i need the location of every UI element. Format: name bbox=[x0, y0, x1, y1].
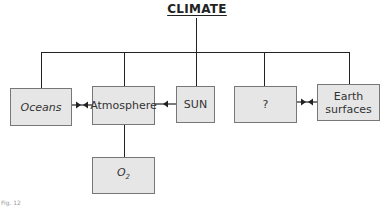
node-unknown: ? bbox=[234, 86, 297, 123]
node-unknown-label: ? bbox=[263, 98, 269, 111]
node-oceans: Oceans bbox=[10, 88, 72, 126]
node-o2: O2 bbox=[92, 157, 155, 194]
node-earth-surfaces-label-line1: Earth bbox=[334, 90, 364, 103]
node-o2-label-base: O bbox=[117, 166, 126, 179]
node-earth-surfaces-label-line2: surfaces bbox=[325, 103, 371, 116]
node-o2-label-subscript: 2 bbox=[126, 174, 130, 182]
node-atmosphere-label: Atmosphere bbox=[90, 99, 157, 112]
node-sun-label: SUN bbox=[184, 98, 207, 111]
sun-atmosphere-arrow bbox=[155, 101, 176, 108]
node-earth-surfaces: Earth surfaces bbox=[317, 84, 380, 121]
oceans-atmosphere-bidirectional-arrow bbox=[72, 102, 92, 109]
node-oceans-label: Oceans bbox=[21, 101, 62, 114]
figure-caption: Fig. 12 bbox=[1, 199, 21, 206]
unknown-earth-bidirectional-arrow bbox=[297, 99, 317, 106]
node-o2-label: O2 bbox=[117, 166, 130, 184]
node-sun: SUN bbox=[176, 86, 215, 123]
node-atmosphere: Atmosphere bbox=[92, 86, 155, 125]
